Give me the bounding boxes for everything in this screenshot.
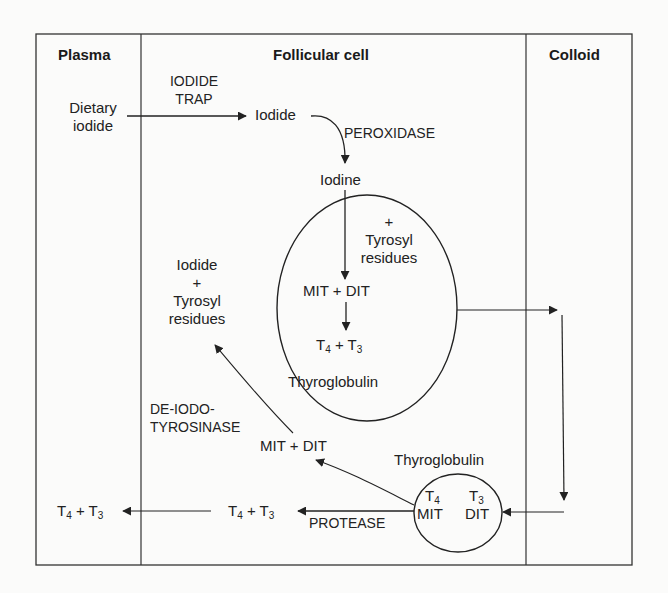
small-t3: T3 [469,487,484,505]
tyrosyl-residues-input: + Tyrosyl residues [352,213,426,267]
dietary-iodide-line1: Dietary [60,99,126,117]
header-follicular-cell: Follicular cell [273,46,369,63]
plasma-t3-t: + T [72,502,98,519]
tyrosyl-line2: residues [352,249,426,267]
t4-t3-plasma-node: T4 + T3 [57,502,103,520]
t4-t3-cell-node: T4 + T3 [228,502,274,520]
small-t3-t: T [469,487,478,504]
t3-inner-sub: 3 [357,344,363,355]
small-mit: MIT [417,505,443,523]
iodide-trap-label: IODIDE TRAP [164,72,224,108]
iodide-trap-line2: TRAP [164,90,224,108]
mit-dit-inner-node: MIT + DIT [303,282,370,300]
dietary-iodide-label: Dietary iodide [60,99,126,135]
dietary-iodide-line2: iodide [60,117,126,135]
tyrosyl-line1: Tyrosyl [352,231,426,249]
t4-inner-t: T [316,336,325,353]
small-t4: T4 [425,487,440,505]
plasma-t3-sub: 3 [98,510,104,521]
iodide-node: Iodide [255,106,296,124]
protease-label: PROTEASE [309,514,385,532]
thyroglobulin-small-label: Thyroglobulin [394,451,484,469]
recycled-plus-line: + [161,274,233,292]
peroxidase-arrow [311,116,345,163]
deiodotyrosinase-line1: DE-IODO- [150,400,240,418]
iodide-trap-line1: IODIDE [164,72,224,90]
colloid-storage-arrow [562,315,564,500]
t4-t3-inner-node: T4 + T3 [316,336,362,354]
deiodotyrosinase-line2: TYROSINASE [150,418,240,436]
recycled-iodide-tyrosyl: Iodide + Tyrosyl residues [161,256,233,328]
plasma-t4-t: T [57,502,66,519]
recycled-residues-line: residues [161,310,233,328]
header-plasma: Plasma [58,46,111,63]
recycled-iodide-line: Iodide [161,256,233,274]
small-t4-t: T [425,487,434,504]
deiodotyrosinase-label: DE-IODO- TYROSINASE [150,400,240,436]
small-dit: DIT [465,505,489,523]
mit-dit-released-node: MIT + DIT [260,437,327,455]
iodine-node: Iodine [320,171,361,189]
peroxidase-label: PEROXIDASE [344,124,435,142]
recycled-tyrosyl-line: Tyrosyl [161,292,233,310]
plus-sign: + [352,213,426,231]
thyroglobulin-large-label: Thyroglobulin [288,373,378,391]
cell-t3-sub: 3 [269,510,275,521]
header-colloid: Colloid [549,46,600,63]
cell-t4-t: T [228,502,237,519]
t3-inner-t: + T [331,336,357,353]
cell-t3-t: + T [243,502,269,519]
